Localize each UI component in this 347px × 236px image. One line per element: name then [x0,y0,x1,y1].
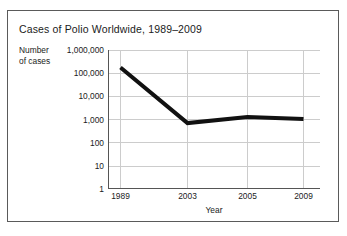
chart-title: Cases of Polio Worldwide, 1989–2009 [19,23,202,35]
x-tick-label: 2009 [294,191,313,201]
y-tick-label: 100,000 [74,68,104,78]
y-tick-label: 10 [95,161,104,171]
plot-area [108,50,320,189]
x-axis-tick-labels: 1989 2003 2005 2009 [108,191,320,205]
y-tick-label: 1,000,000 [67,45,104,55]
x-tick-label: 1989 [111,191,130,201]
polio-chart-figure: Cases of Polio Worldwide, 1989–2009 Numb… [0,0,347,236]
chart-plot-svg [108,50,320,189]
data-series-line [121,68,304,124]
horizontal-gridlines [108,51,320,167]
y-tick-label: 10,000 [78,91,104,101]
x-axis-title: Year [108,205,320,215]
x-tick-label: 2003 [178,191,197,201]
y-tick-label: 1 [99,184,104,194]
y-tick-label: 100 [90,138,104,148]
x-tick-label: 2005 [238,191,257,201]
y-axis-tick-labels: 1,000,000 100,000 10,000 1,000 100 10 1 [0,50,104,189]
y-tick-label: 1,000 [83,115,104,125]
